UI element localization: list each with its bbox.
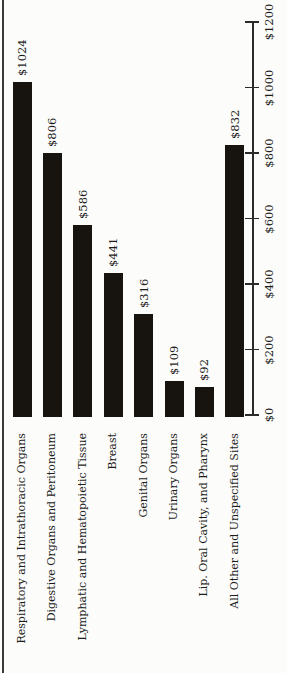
bar (225, 145, 244, 417)
axis-tick-label: $600 (262, 204, 276, 233)
bar (134, 314, 153, 417)
bar-value-label: $441 (106, 237, 120, 266)
category-label: Urinary Organs (167, 433, 181, 520)
axis-tick (245, 283, 259, 285)
bar (43, 153, 62, 417)
scanned-chart-page: $1024$806$586$441$316$109$92$832 $0$200$… (0, 0, 287, 673)
bar-value-label: $109 (167, 346, 181, 375)
category-label: Lip. Oral Cavity, and Pharynx (197, 433, 211, 597)
axis-tick-label: $200 (262, 335, 276, 364)
axis-tick (245, 87, 259, 89)
axis-tick (245, 414, 259, 416)
bar (195, 387, 214, 417)
bar (73, 225, 92, 417)
bar (104, 273, 123, 417)
bar-value-label: $316 (137, 278, 151, 307)
category-label: Lymphatic and Hematopoietic Tissue (76, 433, 90, 640)
category-label: Digestive Organs and Peritoneum (45, 433, 59, 621)
axis-tick-label: $0 (262, 408, 276, 423)
bar-value-label: $806 (45, 118, 59, 147)
page-edge-line (2, 0, 4, 673)
bar-value-label: $92 (197, 359, 211, 381)
category-label: All Other and Unspecified Sites (228, 433, 242, 609)
category-label: Breast (106, 433, 120, 469)
axis-tick-label: $800 (262, 138, 276, 167)
axis-tick-label: $1000 (262, 69, 276, 106)
bar (165, 381, 184, 417)
category-label: Genital Organs (137, 433, 151, 518)
category-label: Respiratory and Intrathoracic Organs (15, 433, 29, 644)
axis-tick (245, 21, 259, 23)
axis-tick (245, 218, 259, 220)
bar (13, 82, 32, 417)
axis-tick-label: $400 (262, 269, 276, 298)
axis-tick (245, 152, 259, 154)
bar-value-label: $832 (228, 109, 242, 138)
axis-tick (245, 349, 259, 351)
axis-tick-label: $1200 (262, 4, 276, 41)
bar-value-label: $1024 (15, 39, 29, 76)
bar-value-label: $586 (76, 190, 90, 219)
